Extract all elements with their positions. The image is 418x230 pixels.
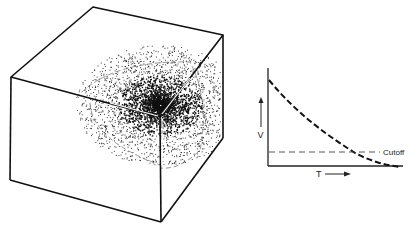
t-arrow-head-icon — [344, 172, 351, 177]
v-axis-label: V — [258, 130, 264, 140]
t-axis-label: T — [316, 169, 322, 179]
v-arrow-head-icon — [259, 97, 264, 103]
decay-graph: Cutoff V T — [258, 68, 405, 179]
figure-canvas: Cutoff V T — [0, 0, 418, 230]
cube-outline — [10, 7, 223, 222]
cutoff-label: Cutoff — [383, 148, 405, 157]
cube-diagram — [10, 7, 223, 222]
decay-curve — [269, 80, 400, 167]
